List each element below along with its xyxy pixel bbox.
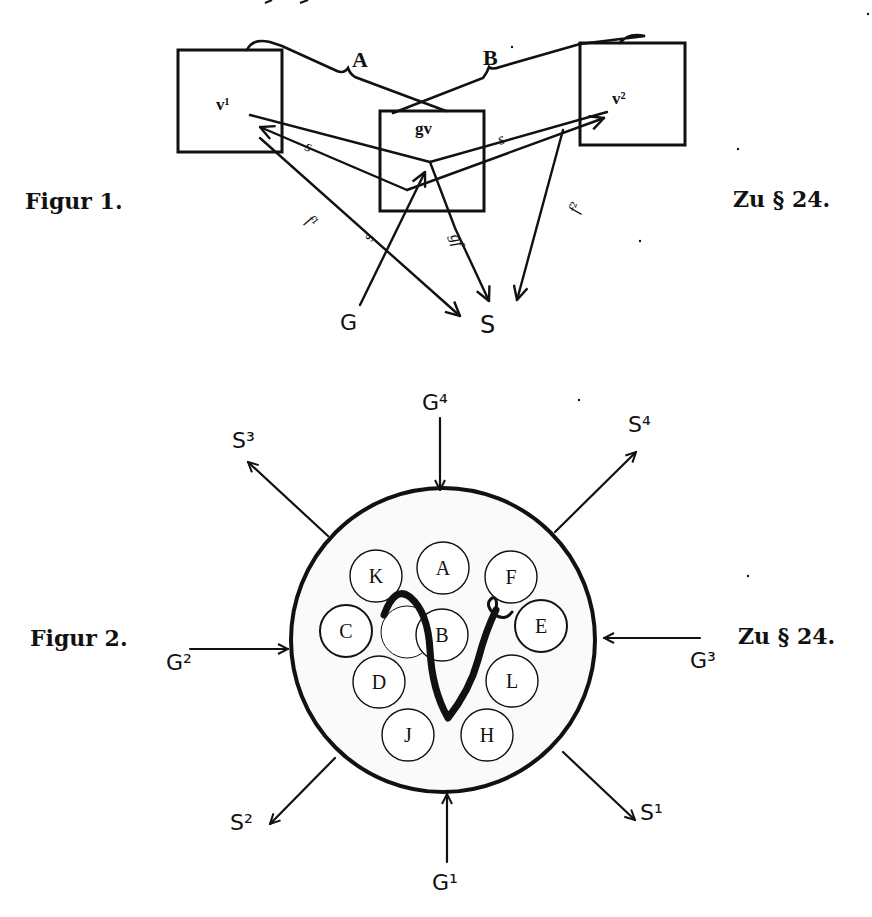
label-s1: S¹ [640, 800, 663, 825]
label-g1: G¹ [432, 870, 458, 895]
letter-f: F [505, 566, 516, 588]
label-gv: gv [415, 119, 433, 138]
letter-e: E [535, 615, 547, 637]
label-s-right: s [495, 130, 507, 148]
box-v2 [580, 43, 685, 145]
connector-b [393, 35, 645, 113]
arrow-s1 [563, 752, 635, 820]
letter-b: B [435, 624, 448, 646]
letter-l: L [506, 670, 518, 692]
stray-dots [511, 13, 869, 577]
figure-1-reference: Zu § 24. [733, 186, 830, 212]
letter-h: H [480, 724, 494, 746]
letter-k: K [369, 565, 384, 587]
label-f2: f² [565, 199, 585, 215]
label-s2: S² [230, 810, 253, 835]
label-g2: G² [166, 650, 192, 675]
node-g: G [340, 310, 357, 335]
label-s3: S³ [232, 428, 255, 453]
label-g4: G⁴ [422, 390, 448, 415]
figure-2-caption: Figur 2. [30, 625, 128, 651]
arrow-s2 [270, 758, 335, 824]
label-s-left: s [303, 137, 315, 155]
box-v1 [178, 50, 282, 152]
arrow-s3 [248, 462, 328, 536]
letter-a: A [436, 557, 451, 579]
label-s4: S⁴ [628, 412, 651, 437]
arrow-s4 [555, 452, 636, 532]
diagram-canvas: A B v¹ gv v² s s f¹ s gf f² G S Figur 1.… [0, 0, 872, 917]
figure-1-caption: Figur 1. [25, 188, 123, 214]
arrow-f2 [517, 130, 563, 300]
label-v2: v² [612, 89, 626, 108]
letter-d: D [372, 671, 386, 693]
top-stray-marks [265, 0, 308, 3]
node-s: S [480, 311, 495, 339]
label-v1: v¹ [216, 95, 230, 114]
figure-1 [178, 35, 685, 316]
letter-j: J [404, 724, 412, 746]
label-b: B [483, 45, 498, 70]
letter-c: C [339, 620, 352, 642]
label-a: A [352, 47, 368, 72]
label-g3: G³ [690, 648, 716, 673]
label-f1: f¹ [302, 211, 321, 231]
figure-2-reference: Zu § 24. [738, 623, 835, 649]
